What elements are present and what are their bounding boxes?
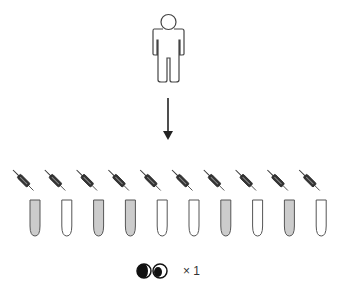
empty-tube bbox=[253, 200, 263, 236]
syringe-row bbox=[11, 168, 321, 192]
empty-tube bbox=[157, 200, 167, 236]
syringe-icon bbox=[138, 168, 162, 192]
syringe-icon bbox=[107, 168, 131, 192]
tube-row bbox=[30, 200, 326, 236]
filled-tube bbox=[125, 200, 135, 236]
syringe-icon bbox=[297, 168, 321, 192]
person-outline-icon bbox=[153, 15, 184, 83]
syringe-icon bbox=[43, 168, 67, 192]
empty-tube bbox=[189, 200, 199, 236]
syringe-icon bbox=[234, 168, 258, 192]
syringe-icon bbox=[266, 168, 290, 192]
filled-tube bbox=[30, 200, 40, 236]
down-arrow-icon bbox=[163, 98, 173, 140]
eyes-multiplier-label: × 1 bbox=[183, 264, 200, 278]
syringe-icon bbox=[170, 168, 194, 192]
empty-tube bbox=[62, 200, 72, 236]
filled-tube bbox=[94, 200, 104, 236]
eyes-icon bbox=[137, 264, 167, 278]
filled-tube bbox=[221, 200, 231, 236]
syringe-icon bbox=[11, 168, 35, 192]
filled-tube bbox=[284, 200, 294, 236]
empty-tube bbox=[316, 200, 326, 236]
syringe-icon bbox=[202, 168, 226, 192]
syringe-icon bbox=[75, 168, 99, 192]
diagram-canvas bbox=[0, 0, 338, 294]
